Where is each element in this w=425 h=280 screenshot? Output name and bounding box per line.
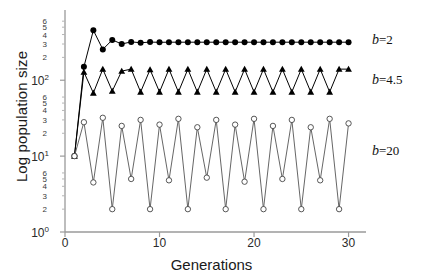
annotation-b45: b=4.5 <box>372 72 403 88</box>
plot-canvas <box>0 0 425 280</box>
series-b20 <box>72 115 351 212</box>
annotation-b2: b=2 <box>372 32 393 48</box>
series-b45 <box>71 66 352 159</box>
chart-figure: Log population size Generations 10010110… <box>0 0 425 280</box>
annotation-b20: b=20 <box>372 143 399 159</box>
